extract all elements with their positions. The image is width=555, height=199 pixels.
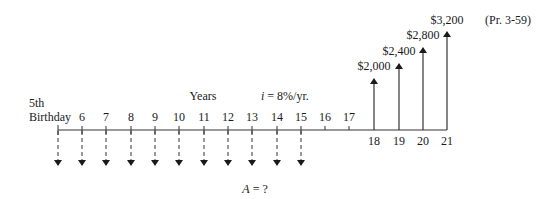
tick-label: 15 [295, 111, 307, 124]
tick-label: 17 [343, 111, 355, 124]
tick-label: 8 [128, 111, 134, 124]
tick-label: 19 [393, 135, 405, 148]
start-label-line2: Birthday [29, 111, 71, 124]
tick-label: 18 [368, 135, 380, 148]
tick-label: 10 [173, 111, 185, 124]
problem-ref: (Pr. 3-59) [485, 14, 531, 27]
annuity-label: A = ? [242, 183, 267, 196]
receipt-amount: $2,400 [383, 45, 416, 58]
receipt-amount: $2,800 [407, 29, 440, 42]
tick-label: 9 [152, 111, 158, 124]
axis-title: Years [190, 90, 217, 103]
start-label-line1: 5th [29, 97, 44, 110]
tick-label: 20 [417, 135, 429, 148]
interest-value: = 8%/yr. [264, 89, 308, 103]
receipt-amount: $3,200 [431, 14, 464, 27]
tick-label: 14 [271, 111, 283, 124]
tick-label: 12 [222, 111, 234, 124]
tick-label: 11 [198, 111, 210, 124]
tick-label: 7 [103, 111, 109, 124]
tick-label: 21 [441, 135, 453, 148]
receipt-amount: $2,000 [358, 60, 391, 73]
annuity-value: = ? [250, 182, 268, 196]
interest-rate: i = 8%/yr. [261, 90, 309, 103]
tick-label: 6 [79, 111, 85, 124]
tick-label: 16 [319, 111, 331, 124]
withdrawal-arrows [58, 131, 301, 163]
tick-label: 13 [246, 111, 258, 124]
